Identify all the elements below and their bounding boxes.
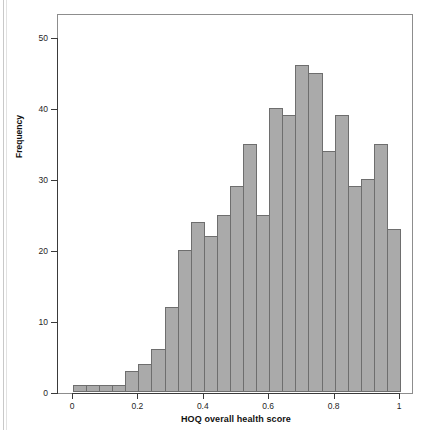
histogram-bar — [269, 108, 283, 392]
histogram-bar — [165, 307, 179, 392]
x-axis-tick — [268, 394, 269, 399]
x-axis-tick-label: 0.6 — [262, 401, 274, 411]
histogram-bar — [374, 144, 388, 393]
y-axis-tick-label: 20 — [39, 246, 48, 256]
y-axis-tick-label: 10 — [39, 317, 48, 327]
histogram-bar — [361, 179, 375, 392]
y-axis-title: Frequency — [14, 115, 24, 158]
y-axis-tick — [51, 109, 57, 110]
histogram-bar — [308, 73, 322, 393]
scan-edge-line-secondary — [6, 0, 7, 430]
plot-frame — [57, 14, 413, 394]
histogram-bar — [125, 371, 139, 392]
histogram-bar — [230, 186, 244, 392]
y-axis-tick-label: 40 — [39, 104, 48, 114]
histogram-bar — [282, 115, 296, 392]
x-axis-tick-label: 0.2 — [131, 401, 143, 411]
x-axis-tick-label: 1 — [397, 401, 402, 411]
x-axis-title: HOQ overall health score — [72, 414, 400, 424]
histogram-bar — [322, 151, 336, 392]
x-axis-line — [72, 393, 400, 394]
x-axis-tick-label: 0 — [70, 401, 75, 411]
histogram-bar — [73, 385, 87, 392]
histogram-bar — [348, 186, 362, 392]
x-axis-tick — [203, 394, 204, 399]
x-axis-tick-label: 0.4 — [197, 401, 209, 411]
histogram-bar — [151, 349, 165, 392]
x-axis-tick — [399, 394, 400, 399]
histogram-bar — [387, 229, 401, 392]
y-axis-tick — [51, 322, 57, 323]
histogram-bar — [112, 385, 126, 392]
x-axis-tick-label: 0.8 — [328, 401, 340, 411]
y-axis-tick — [51, 393, 57, 394]
histogram-bar — [138, 364, 152, 392]
y-axis-tick-label: 0 — [43, 388, 48, 398]
histogram-bar — [295, 65, 309, 392]
x-axis-tick — [137, 394, 138, 399]
histogram-bar — [217, 215, 231, 393]
y-axis-tick-label: 50 — [39, 33, 48, 43]
histogram-bar — [191, 222, 205, 392]
x-axis-tick — [334, 394, 335, 399]
y-axis-line — [57, 38, 58, 394]
histogram-bar — [99, 385, 113, 392]
histogram-bar — [335, 115, 349, 392]
y-axis-tick-label: 30 — [39, 175, 48, 185]
histogram-figure: 00.20.40.60.81 01020304050 HOQ overall h… — [0, 0, 423, 448]
histogram-bar — [256, 215, 270, 393]
y-axis-tick — [51, 38, 57, 39]
y-axis-tick — [51, 180, 57, 181]
y-axis-tick — [51, 251, 57, 252]
histogram-bar — [178, 250, 192, 392]
scan-edge-line — [3, 0, 4, 430]
histogram-bar — [86, 385, 100, 392]
x-axis-tick — [72, 394, 73, 399]
histogram-bar — [243, 144, 257, 393]
histogram-bar — [204, 236, 218, 392]
histogram-bars — [73, 37, 400, 392]
